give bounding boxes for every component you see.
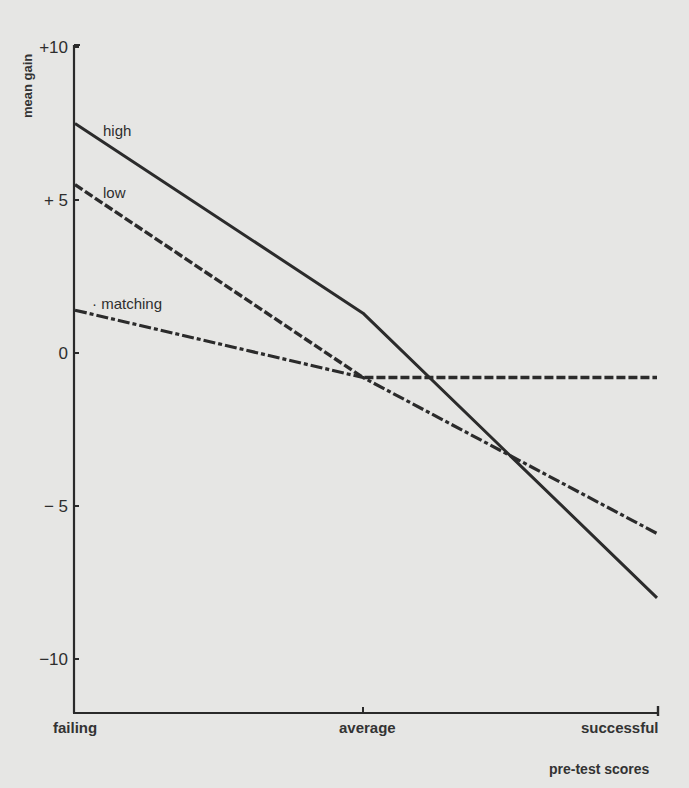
- series-line-high: [75, 124, 657, 598]
- x-axis-title: pre-test scores: [549, 761, 650, 777]
- x-category-failing: failing: [53, 719, 97, 736]
- series-label-matching: · matching: [92, 295, 162, 312]
- series-label-high: high: [103, 122, 131, 139]
- x-category-average: average: [339, 719, 396, 736]
- y-tick-label: −10: [39, 650, 68, 669]
- series-line-matching: [75, 310, 657, 533]
- series-line-low: [75, 185, 657, 378]
- y-tick-label: − 5: [44, 497, 68, 516]
- y-tick-label: +10: [39, 38, 68, 57]
- y-tick-label: + 5: [44, 191, 68, 210]
- series-lines: [75, 124, 657, 598]
- x-category-successful: successful: [581, 719, 659, 736]
- y-tick-label: 0: [59, 344, 68, 363]
- y-axis-title: mean gain: [20, 54, 35, 118]
- line-chart: +10+ 50− 5−10 mean gain high low · match…: [0, 0, 689, 788]
- series-label-low: low: [103, 184, 126, 201]
